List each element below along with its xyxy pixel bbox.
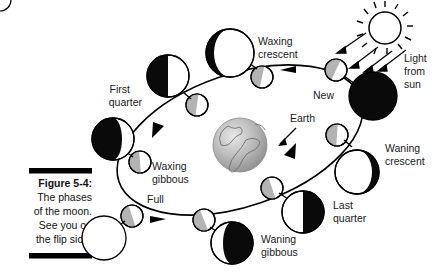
label-last-quarter-2: quarter [333,212,367,224]
label-waning-gibbous-2: gibbous [261,246,298,258]
label-sun-line-1: Light [404,52,427,64]
phase-moon-new [349,72,397,120]
label-waning-crescent-2: crescent [385,155,425,167]
label-first-quarter-1: First [110,83,130,95]
sun-disc [369,12,401,44]
label-last-quarter-1: Last [333,199,353,211]
phase-moon-waning-gibbous [211,222,253,264]
caption-rule-bottom [29,253,92,259]
label-waxing-gibbous-1: Waxing [152,160,187,172]
label-waning-crescent-1: Waning [385,142,420,154]
caption-line-2: of the moon. [34,205,92,217]
earth-globe [213,118,267,172]
caption-line-1: The phases [37,191,92,203]
phase-moon-last-quarter [282,191,324,233]
label-waxing-crescent-2: crescent [258,48,298,60]
label-sun-line-3: sun [404,78,421,90]
label-waxing-gibbous-2: gibbous [152,173,189,185]
phase-moon-waning-crescent [335,150,379,194]
label-earth: Earth [290,112,315,124]
figure-phases-of-the-moon: Figure 5-4: The phases of the moon. See … [0,0,448,272]
phase-moon-waxing-gibbous [92,118,134,160]
label-new: New [313,89,334,101]
phase-moon-full [82,216,126,260]
phase-moon-waxing-crescent [206,29,254,77]
label-waning-gibbous-1: Waning [261,233,296,245]
label-first-quarter-2: quarter [109,96,143,108]
moon-phases-diagram: Figure 5-4: The phases of the moon. See … [0,0,448,272]
label-sun-line-2: from [404,65,425,77]
caption-figure-number: Figure 5-4: [38,177,92,189]
phase-moon-first-quarter [147,55,189,97]
label-waxing-crescent-1: Waxing [258,35,293,47]
label-full: Full [147,193,164,205]
caption-rule-top [29,168,92,174]
